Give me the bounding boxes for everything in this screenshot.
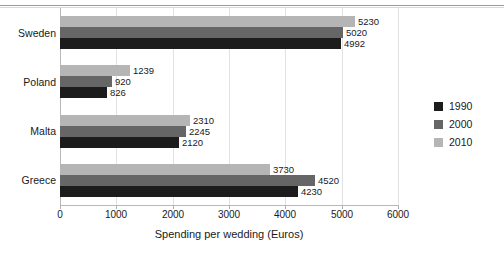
- x-tick-label: 1000: [94, 209, 138, 220]
- bar-value-sweden-1990: 4992: [344, 38, 365, 49]
- x-tick-label: 0: [38, 209, 82, 220]
- legend-label: 2000: [449, 118, 472, 130]
- bar-malta-2000: [60, 126, 186, 137]
- legend-label: 1990: [449, 100, 472, 112]
- bar-value-sweden-2010: 5230: [358, 16, 379, 27]
- category-label-greece: Greece: [0, 174, 56, 186]
- bar-value-greece-1990: 4230: [301, 186, 322, 197]
- legend-swatch-icon: [434, 102, 443, 111]
- bar-value-sweden-2000: 5020: [346, 27, 367, 38]
- legend-swatch-icon: [434, 120, 443, 129]
- bar-malta-1990: [60, 137, 179, 148]
- category-label-text: Poland: [0, 76, 56, 88]
- x-tick-label: 2000: [151, 209, 195, 220]
- bar-sweden-1990: [60, 38, 341, 49]
- bar-value-malta-1990: 2120: [182, 137, 203, 148]
- bar-sweden-2010: [60, 16, 355, 27]
- category-label-poland: Poland: [0, 76, 56, 88]
- category-label-text: Greece: [0, 174, 56, 186]
- legend: 199020002010: [434, 99, 472, 153]
- x-axis-title: Spending per wedding (Euros): [60, 228, 398, 240]
- x-tick-label: 4000: [263, 209, 307, 220]
- bar-sweden-2000: [60, 27, 343, 38]
- bar-value-malta-2010: 2310: [193, 115, 214, 126]
- category-label-text: Malta: [0, 125, 56, 137]
- bar-value-poland-2010: 1239: [133, 65, 154, 76]
- x-tick-label: 5000: [320, 209, 364, 220]
- bar-poland-2010: [60, 65, 130, 76]
- legend-swatch-icon: [434, 138, 443, 147]
- legend-label: 2010: [449, 136, 472, 148]
- bar-greece-2000: [60, 175, 315, 186]
- category-label-malta: Malta: [0, 125, 56, 137]
- bar-chart: SwedenPolandMaltaGreece 5230502049921239…: [0, 0, 504, 256]
- page-top-rule: [0, 5, 504, 6]
- bar-greece-2010: [60, 164, 270, 175]
- bar-malta-2010: [60, 115, 190, 126]
- x-tick-label: 6000: [376, 209, 420, 220]
- legend-item-1990[interactable]: 1990: [434, 99, 472, 113]
- page-top-rule-secondary: [0, 7, 504, 8]
- bar-greece-1990: [60, 186, 298, 197]
- x-tick-label: 3000: [207, 209, 251, 220]
- bar-poland-1990: [60, 87, 107, 98]
- bar-value-greece-2010: 3730: [273, 164, 294, 175]
- x-axis-line: [60, 205, 398, 206]
- gridline: [398, 8, 399, 205]
- bar-poland-2000: [60, 76, 112, 87]
- bar-value-greece-2000: 4520: [318, 175, 339, 186]
- bar-value-poland-2000: 920: [115, 76, 131, 87]
- category-label-sweden: Sweden: [0, 27, 56, 39]
- category-label-text: Sweden: [0, 27, 56, 39]
- bar-value-poland-1990: 826: [110, 87, 126, 98]
- legend-item-2010[interactable]: 2010: [434, 135, 472, 149]
- bar-value-malta-2000: 2245: [189, 126, 210, 137]
- legend-item-2000[interactable]: 2000: [434, 117, 472, 131]
